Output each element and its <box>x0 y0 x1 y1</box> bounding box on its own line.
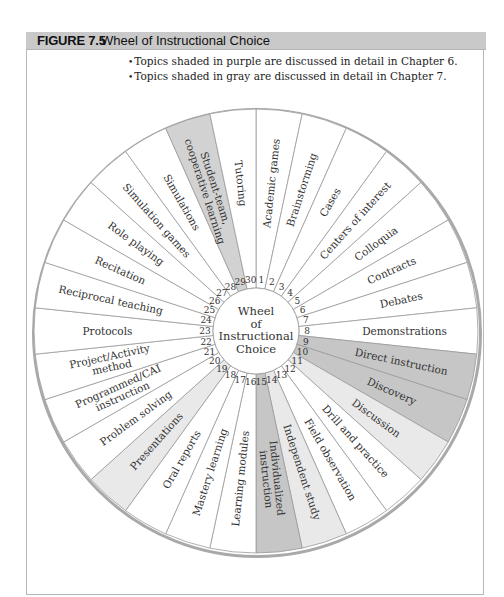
segment-number: 23 <box>199 326 211 336</box>
segment-label: Demonstrations <box>362 325 447 337</box>
segment-label: Protocols <box>83 325 133 337</box>
segment-number: 7 <box>303 315 309 325</box>
segment-number: 6 <box>300 305 306 315</box>
segment-number: 24 <box>200 315 212 325</box>
segment-number: 22 <box>200 337 211 347</box>
segment-number: 9 <box>303 337 309 347</box>
segment-number: 8 <box>304 326 310 336</box>
segment-number: 1 <box>258 275 264 285</box>
segment-number: 2 <box>269 277 275 287</box>
segment-number: 30 <box>245 275 257 285</box>
segment-number: 21 <box>204 347 215 357</box>
segment-number: 15 <box>256 377 268 387</box>
wheel-diagram: 1Academic games2Brainstorming3Cases4Cent… <box>0 0 504 597</box>
segment-number: 4 <box>287 288 293 298</box>
segment-number: 16 <box>245 377 257 387</box>
segment-number: 14 <box>266 375 278 385</box>
segment-number: 3 <box>279 282 285 292</box>
